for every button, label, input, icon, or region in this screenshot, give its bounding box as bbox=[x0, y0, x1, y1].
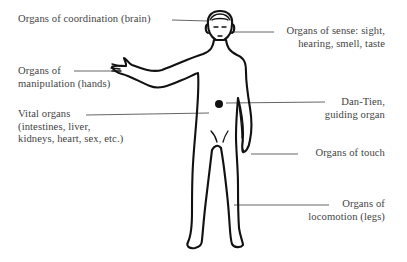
label-touch-line-1: Organs of touch bbox=[315, 147, 385, 160]
dan-tien-dot bbox=[215, 100, 223, 108]
label-dantien-line-2: guiding organ bbox=[325, 109, 385, 122]
leader-coordination bbox=[172, 20, 208, 21]
label-vital-line-2: (intestines, liver, bbox=[18, 121, 123, 134]
label-sense: Organs of sense: sight, hearing, smell, … bbox=[286, 25, 385, 50]
label-manipulation: Organs of manipulation (hands) bbox=[18, 65, 110, 90]
label-vital-line-3: kidneys, heart, sex, etc.) bbox=[18, 133, 123, 146]
hair-band bbox=[210, 14, 230, 20]
label-coordination: Organs of coordination (brain) bbox=[18, 13, 151, 26]
body-organs-diagram: Organs of coordination (brain) Organs of… bbox=[0, 0, 407, 262]
label-dantien-line-1: Dan-Tien, bbox=[325, 96, 385, 109]
label-touch: Organs of touch bbox=[315, 147, 385, 160]
groin bbox=[211, 131, 228, 142]
torso-left-arm bbox=[112, 40, 221, 248]
label-sense-line-2: hearing, smell, taste bbox=[286, 38, 385, 51]
label-manipulation-line-1: Organs of bbox=[18, 65, 110, 78]
leader-dantien bbox=[226, 102, 325, 103]
label-vital-organs: Vital organs (intestines, liver, kidneys… bbox=[18, 108, 123, 146]
label-coordination-line-1: Organs of coordination (brain) bbox=[18, 13, 151, 26]
label-locomotion-line-2: locomotion (legs) bbox=[308, 211, 385, 224]
label-locomotion-line-1: Organs of bbox=[308, 198, 385, 211]
label-manipulation-line-2: manipulation (hands) bbox=[18, 78, 110, 91]
label-sense-line-1: Organs of sense: sight, bbox=[286, 25, 385, 38]
label-dan-tien: Dan-Tien, guiding organ bbox=[325, 96, 385, 121]
body-outline bbox=[111, 11, 252, 248]
torso-right-arm bbox=[221, 40, 252, 247]
label-vital-line-1: Vital organs bbox=[18, 108, 123, 121]
label-locomotion: Organs of locomotion (legs) bbox=[308, 198, 385, 223]
